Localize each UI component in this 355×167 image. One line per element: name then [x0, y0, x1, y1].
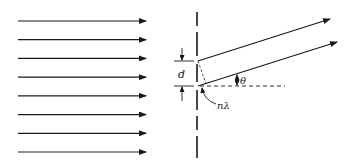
diffracted-ray-lower — [198, 42, 337, 86]
n-lambda-label: nλ — [217, 100, 230, 111]
incident-wave-arrows — [18, 21, 146, 152]
path-difference-line — [198, 61, 206, 84]
d-label: d — [178, 68, 185, 81]
diffraction-diagram: θ d nλ — [0, 0, 355, 167]
theta-label: θ — [240, 75, 246, 86]
path-difference-pointer — [202, 88, 216, 104]
diffracted-ray-upper — [198, 19, 330, 61]
